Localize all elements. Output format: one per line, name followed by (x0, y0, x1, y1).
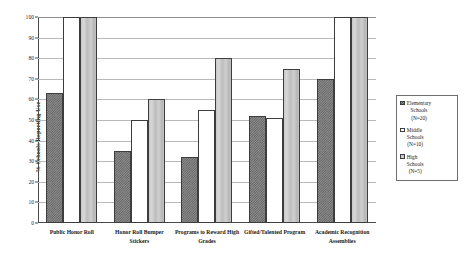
legend-swatch-icon (400, 101, 405, 106)
bar-elementary (181, 157, 198, 223)
bar-group (106, 17, 174, 223)
bar-high (80, 17, 97, 223)
bar-middle (266, 118, 283, 223)
bar-high (351, 17, 368, 223)
legend-swatch-icon (400, 128, 405, 133)
bar-chart: % Schools Reporting Use 0102030405060708… (0, 0, 476, 273)
legend-item: HighSchools(N=5) (400, 154, 454, 176)
x-axis-label: Public Honor Roll (38, 228, 106, 245)
bar-middle (334, 17, 351, 223)
legend-item: ElementarySchools(N=20) (400, 100, 454, 122)
bar-group (241, 17, 309, 223)
legend-label: MiddleSchools(N=10) (407, 127, 424, 149)
bar-elementary (46, 93, 63, 223)
legend-item: MiddleSchools(N=10) (400, 127, 454, 149)
bar-high (148, 99, 165, 223)
x-axis-labels: Public Honor RollHonor Roll BumperSticke… (38, 228, 376, 245)
x-axis-label: Gifted/Talented Program (241, 228, 309, 245)
x-axis-label: Programs to Reward HighGrades (173, 228, 241, 245)
bar-middle (63, 17, 80, 223)
legend-label: ElementarySchools(N=20) (407, 100, 431, 122)
legend-label: HighSchools(N=5) (407, 154, 424, 176)
legend-swatch-icon (400, 154, 405, 159)
bar-group (308, 17, 376, 223)
bar-group (173, 17, 241, 223)
x-axis-label: Honor Roll BumperStickers (106, 228, 174, 245)
bar-middle (131, 120, 148, 223)
bar-elementary (249, 116, 266, 223)
x-axis-label: Academic RecognitionAssemblies (308, 228, 376, 245)
bar-elementary (317, 79, 334, 223)
bar-high (283, 69, 300, 224)
bar-groups (38, 17, 376, 223)
plot-area: 0102030405060708090100 (38, 17, 376, 223)
bar-high (215, 58, 232, 223)
chart-legend: ElementarySchools(N=20)MiddleSchools(N=1… (396, 95, 458, 181)
bar-group (38, 17, 106, 223)
bar-elementary (114, 151, 131, 223)
bar-middle (198, 110, 215, 223)
